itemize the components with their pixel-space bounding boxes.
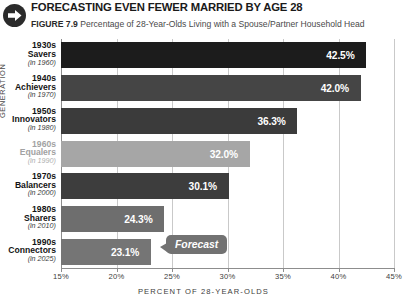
x-axis-tick-label: 35% xyxy=(275,272,291,281)
bar-row: 30.1% xyxy=(61,173,394,199)
bar-value-label: 30.1% xyxy=(189,181,217,192)
y-axis-category-label: 1930sSavers(in 1960) xyxy=(0,41,56,67)
x-axis-tick-label: 25% xyxy=(164,272,180,281)
y-axis-category-label: 1940sAchievers(in 1970) xyxy=(0,74,56,100)
x-axis-title: PERCENT OF 28-YEAR-OLDS xyxy=(0,287,407,296)
bar-value-label: 42.0% xyxy=(321,83,349,94)
bar xyxy=(61,75,361,101)
gridline xyxy=(394,39,395,268)
bar-row: 23.1% xyxy=(61,239,394,265)
bar-value-label: 36.3% xyxy=(257,115,285,126)
arrow-right-circle-icon xyxy=(2,3,27,28)
bar xyxy=(61,42,366,68)
x-axis-tick-label: 15% xyxy=(53,272,69,281)
category-year: (in 1990) xyxy=(0,157,56,166)
y-axis-category-label: 1970sBalancers(in 2000) xyxy=(0,172,56,198)
bar-value-label: 23.1% xyxy=(111,246,139,257)
bar-value-label: 42.5% xyxy=(326,50,354,61)
category-year: (in 2010) xyxy=(0,222,56,231)
bar-row: 24.3% xyxy=(61,206,394,232)
figure-caption: FIGURE 7.9 Percentage of 28-Year-Olds Li… xyxy=(31,19,365,29)
bar-value-label: 32.0% xyxy=(210,148,238,159)
bar-value-label: 24.3% xyxy=(124,213,152,224)
y-axis-category-label: 1980sSharers(in 2010) xyxy=(0,205,56,231)
figure-header: FORECASTING EVEN FEWER MARRIED BY AGE 28… xyxy=(0,0,407,36)
x-axis-tick-label: 40% xyxy=(331,272,347,281)
chart-plot-area: 42.5%42.0%36.3%32.0%30.1%24.3%23.1% xyxy=(61,39,394,268)
page-title: FORECASTING EVEN FEWER MARRIED BY AGE 28 xyxy=(31,1,302,13)
x-axis-tick-label: 20% xyxy=(109,272,125,281)
category-year: (in 2025) xyxy=(0,255,56,264)
source-note xyxy=(2,300,172,306)
bar-row: 42.0% xyxy=(61,75,394,101)
category-year: (in 1960) xyxy=(0,59,56,68)
category-year: (in 1970) xyxy=(0,91,56,100)
y-axis-category-label: 1990sConnectors(in 2025) xyxy=(0,238,56,264)
y-axis-category-label: 1950sInnovators(in 1980) xyxy=(0,107,56,133)
bar-row: 36.3% xyxy=(61,108,394,134)
y-axis-category-label: 1960sEqualers(in 1990) xyxy=(0,140,56,166)
figure-page: FORECASTING EVEN FEWER MARRIED BY AGE 28… xyxy=(0,0,407,308)
x-axis-tick-label: 30% xyxy=(220,272,236,281)
figure-number: FIGURE 7.9 xyxy=(31,19,78,29)
category-year: (in 2000) xyxy=(0,189,56,198)
forecast-callout: Forecast xyxy=(166,235,227,254)
bar-row: 32.0% xyxy=(61,141,394,167)
bar-row: 42.5% xyxy=(61,42,394,68)
figure-caption-text: Percentage of 28-Year-Olds Living with a… xyxy=(80,19,364,29)
category-year: (in 1980) xyxy=(0,124,56,133)
x-axis-tick-label: 45% xyxy=(386,272,402,281)
